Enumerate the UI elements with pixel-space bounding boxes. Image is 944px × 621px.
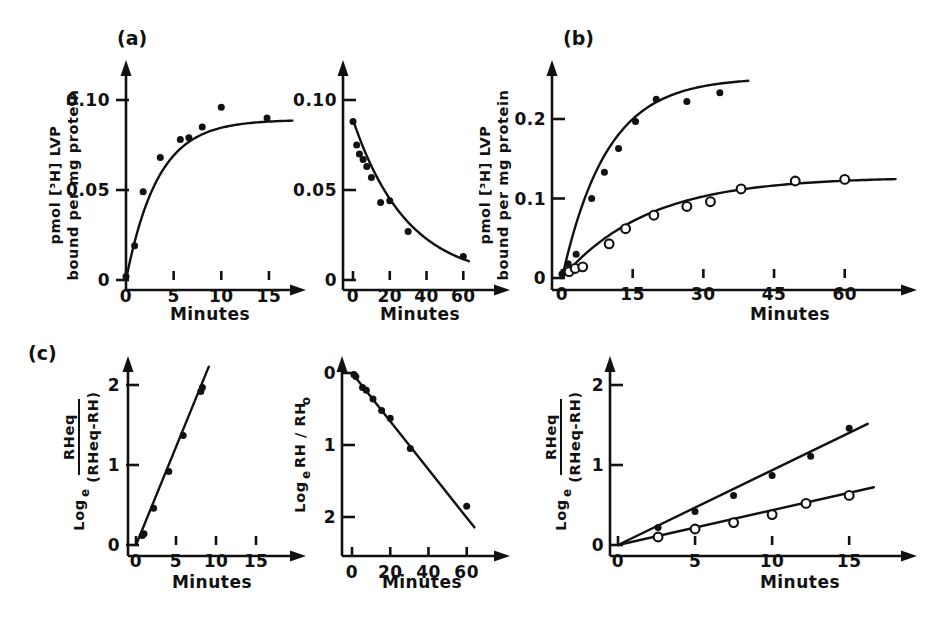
data-point (683, 98, 690, 105)
xtick-label: 15 (244, 551, 269, 571)
data-point (141, 530, 148, 537)
data-point (621, 224, 630, 233)
panel-c2-yaxis-title: Log e RH / RH o (292, 397, 313, 513)
panel-c2-plot (350, 371, 474, 527)
scientific-figure: (a) 05101500.050.10 Minutes pmol [³H] LV… (0, 0, 944, 621)
panel-c2-xaxis-title: Minutes (382, 572, 462, 592)
svg-text:pmol [³H] LVP: pmol [³H] LVP (47, 125, 63, 244)
panel-a-axes (121, 60, 307, 296)
data-point (632, 118, 639, 125)
data-point (264, 115, 271, 122)
ytick-label: 0 (534, 268, 546, 288)
xtick-label: 0 (612, 551, 624, 571)
data-point (353, 142, 360, 149)
data-point (140, 188, 147, 195)
log-label: Log (292, 481, 308, 512)
panel-c-association: (c) 051015012 Minutes Log e RHeq (RHeq-R… (28, 342, 306, 592)
data-point (692, 508, 699, 515)
panel-c-labels: 051015012 (108, 375, 269, 571)
data-point (691, 525, 700, 534)
xtick-label: 15 (837, 551, 862, 571)
ytick-label: 0.10 (293, 90, 337, 110)
panel-a2-plot (350, 118, 469, 261)
log-subscript: e (299, 471, 313, 479)
ytick-label: 0 (108, 535, 120, 555)
fraction-numerator: RHeq (61, 414, 77, 460)
data-point (165, 468, 172, 475)
xtick-label: 0 (130, 551, 142, 571)
xtick-label: 0 (347, 286, 359, 306)
fit-curve (136, 367, 209, 545)
data-point (460, 253, 467, 260)
ytick-label: 0 (98, 270, 110, 290)
data-point (716, 89, 723, 96)
panel-label-c: (c) (28, 342, 57, 364)
data-point (649, 211, 658, 220)
data-point (463, 503, 470, 510)
panel-c-xaxis-title: Minutes (172, 572, 252, 592)
data-point (615, 145, 622, 152)
data-point (601, 169, 608, 176)
data-point (407, 445, 414, 452)
panel-c-dissociation: 0204060012 Minutes Log e RH / RH o (292, 356, 510, 592)
data-point (363, 387, 370, 394)
data-point (370, 395, 377, 402)
panel-b: (b) 01530456000.10.2 Minutes pmol [³H] L… (477, 27, 917, 324)
data-point (218, 104, 225, 111)
ytick-label: 0 (325, 270, 337, 290)
xtick-label: 60 (451, 286, 476, 306)
data-point (123, 273, 130, 280)
data-point (845, 491, 854, 500)
data-point (730, 492, 737, 499)
data-point (363, 163, 370, 170)
xtick-label: 10 (760, 551, 785, 571)
ytick-label: 2 (324, 507, 336, 527)
panel-a2-ticks (343, 100, 463, 280)
xtick-label: 10 (204, 551, 229, 571)
data-point (177, 136, 184, 143)
ytick-label: 0.2 (514, 109, 546, 129)
panel-b-xaxis-title: Minutes (750, 304, 830, 324)
data-point (150, 505, 157, 512)
data-point (378, 407, 385, 414)
data-point (578, 262, 587, 271)
xtick-label: 45 (762, 284, 787, 304)
data-point (405, 228, 412, 235)
ytick-label: 0.1 (514, 189, 546, 209)
svg-text:bound per mg protein: bound per mg protein (495, 90, 511, 281)
xtick-label: 20 (377, 286, 402, 306)
fit-curve (353, 120, 469, 261)
fraction-denominator: (RHeq-RH) (85, 391, 101, 483)
data-point (199, 384, 206, 391)
data-point (180, 432, 187, 439)
xtick-label: 10 (209, 286, 234, 306)
panel-c3-plot (618, 424, 874, 545)
panel-label-b: (b) (563, 27, 594, 49)
ytick-label: 0 (324, 363, 336, 383)
panel-c3-xaxis-title: Minutes (760, 572, 840, 592)
fit-curve (126, 121, 292, 280)
panel-c3-yaxis-title: Log e RHeq (RHeq-RH) (543, 391, 583, 530)
panel-label-a: (a) (117, 27, 147, 49)
log-subscript: e (78, 489, 92, 497)
data-point (350, 118, 357, 125)
xtick-label: 15 (257, 286, 282, 306)
panel-c2-labels: 0204060012 (324, 363, 479, 582)
data-point (653, 96, 660, 103)
data-point (807, 453, 814, 460)
data-point (802, 499, 811, 508)
panel-a-association: (a) 05101500.050.10 Minutes pmol [³H] LV… (47, 27, 306, 324)
data-point (588, 195, 595, 202)
data-point (655, 524, 662, 531)
fraction-numerator: RHeq (543, 414, 559, 460)
ytick-label: 2 (108, 375, 120, 395)
data-point (360, 156, 367, 163)
panel-a-yaxis-title: pmol [³H] LVP bound per mg protein (47, 90, 81, 281)
data-point (368, 174, 375, 181)
data-point (768, 510, 777, 519)
svg-text:bound per mg protein: bound per mg protein (65, 90, 81, 281)
panel-a-plot (123, 104, 293, 280)
data-point (682, 202, 691, 211)
xtick-label: 0 (120, 286, 132, 306)
data-point (199, 124, 206, 131)
